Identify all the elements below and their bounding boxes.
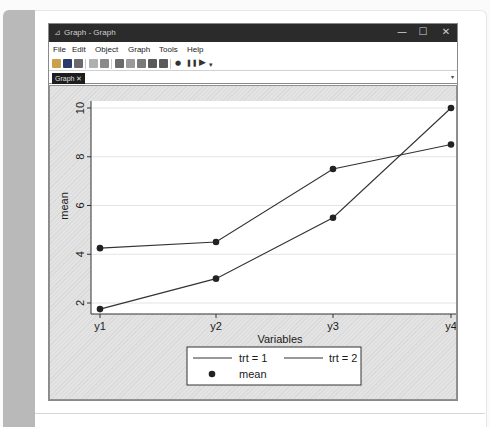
x-tick-label: y4 bbox=[445, 320, 456, 332]
mean-marker bbox=[448, 141, 455, 148]
play-icon[interactable]: ▶ bbox=[199, 57, 206, 67]
mean-marker bbox=[330, 214, 337, 221]
open-icon[interactable] bbox=[52, 59, 61, 68]
toolbar-separator bbox=[170, 59, 171, 69]
x-tick-label: y1 bbox=[94, 320, 106, 332]
tab-list-dropdown-icon[interactable]: ▾ bbox=[451, 73, 454, 80]
paste-icon[interactable] bbox=[100, 59, 109, 68]
mean-marker bbox=[448, 105, 455, 112]
y-tick-label: 2 bbox=[74, 300, 86, 306]
y-tick-label: 6 bbox=[74, 202, 86, 208]
legend-label-mean: mean bbox=[239, 368, 267, 380]
y-tick-label: 8 bbox=[74, 154, 86, 160]
y-axis-title: mean bbox=[58, 192, 70, 220]
y-tick-label: 10 bbox=[74, 102, 86, 114]
stata-app-icon: ⊿ bbox=[54, 28, 61, 37]
copy-icon[interactable] bbox=[89, 59, 98, 68]
window-title: Graph - Graph bbox=[64, 28, 116, 37]
menu-tools[interactable]: Tools bbox=[159, 45, 178, 54]
x-axis-title: Variables bbox=[257, 333, 303, 345]
menu-edit[interactable]: Edit bbox=[72, 45, 86, 54]
y-tick-label: 4 bbox=[74, 251, 86, 257]
record-icon[interactable]: ● bbox=[175, 59, 181, 67]
line-chart: 246810y1y2y3y4Variablesmeantrt = 1trt = … bbox=[50, 86, 456, 399]
tab-graph[interactable]: Graph ✕ bbox=[52, 73, 85, 84]
graph-editor-icon[interactable] bbox=[115, 59, 124, 68]
menu-graph[interactable]: Graph bbox=[128, 45, 150, 54]
mean-marker bbox=[213, 239, 220, 246]
mean-marker bbox=[97, 306, 104, 313]
plot-region bbox=[91, 101, 456, 314]
graph-canvas: 246810y1y2y3y4Variablesmeantrt = 1trt = … bbox=[49, 85, 457, 400]
close-button[interactable]: ✕ bbox=[438, 26, 454, 40]
minimize-button[interactable]: — bbox=[394, 26, 410, 40]
card-divider bbox=[35, 413, 485, 414]
save-icon[interactable] bbox=[63, 59, 72, 68]
maximize-button[interactable]: ☐ bbox=[415, 26, 431, 40]
mean-marker bbox=[97, 245, 104, 252]
tab-row: Graph ✕ ▾ bbox=[49, 72, 457, 84]
menu-bar: File Edit Object Graph Tools Help bbox=[49, 42, 457, 57]
menu-file[interactable]: File bbox=[53, 45, 66, 54]
mean-marker bbox=[330, 166, 337, 173]
left-sidebar-strip bbox=[3, 10, 35, 427]
legend-label-trt1: trt = 1 bbox=[239, 352, 267, 364]
play-dropdown-icon[interactable]: ▾ bbox=[209, 61, 213, 69]
rename-icon[interactable] bbox=[126, 59, 135, 68]
legend-label-trt2: trt = 2 bbox=[329, 352, 357, 364]
title-bar[interactable]: ⊿ Graph - Graph — ☐ ✕ bbox=[49, 24, 457, 42]
x-tick-label: y2 bbox=[210, 320, 222, 332]
graph-window: ⊿ Graph - Graph — ☐ ✕ File Edit Object G… bbox=[48, 23, 458, 401]
pause-icon[interactable]: ❚❚ bbox=[186, 59, 198, 67]
x-tick-label: y3 bbox=[327, 320, 339, 332]
toolbar: ● ❚❚ ▶ ▾ bbox=[49, 57, 457, 71]
toolbar-separator bbox=[111, 59, 112, 69]
mean-marker bbox=[213, 275, 220, 282]
scheme-icon[interactable] bbox=[137, 59, 146, 68]
menu-object[interactable]: Object bbox=[95, 45, 118, 54]
menu-help[interactable]: Help bbox=[187, 45, 203, 54]
page-background: ⊿ Graph - Graph — ☐ ✕ File Edit Object G… bbox=[0, 0, 490, 427]
apply-recording-icon[interactable] bbox=[148, 59, 157, 68]
print-icon[interactable] bbox=[74, 59, 83, 68]
undo-recording-icon[interactable] bbox=[159, 59, 168, 68]
legend-marker-mean bbox=[209, 371, 216, 378]
toolbar-separator bbox=[85, 59, 86, 69]
